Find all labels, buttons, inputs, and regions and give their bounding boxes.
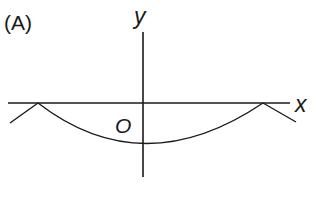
y-axis-label: y [132, 3, 147, 29]
x-axis-label: x [294, 91, 308, 117]
origin-label: O [115, 114, 131, 137]
graph-figure: (A) y x O [0, 0, 318, 203]
panel-label: (A) [4, 11, 32, 34]
curve-right-tail [263, 103, 296, 122]
curve-left-tail [10, 103, 38, 123]
curve-bowl [38, 103, 263, 144]
